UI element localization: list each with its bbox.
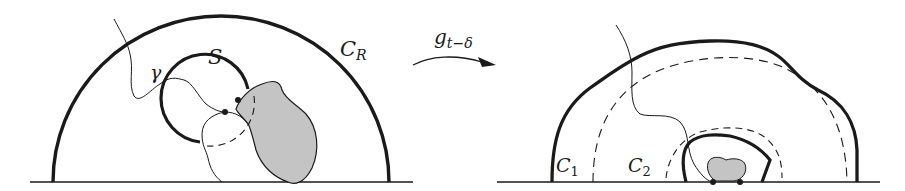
s-circle-thick-arc (161, 54, 248, 142)
label-s: S (208, 45, 222, 69)
label-gamma: γ (150, 61, 162, 83)
mapping-arrow: gt−δ (413, 25, 496, 67)
left-point-2 (235, 97, 241, 103)
c-r-semicircle (53, 16, 389, 182)
arrow-head-icon (478, 57, 496, 67)
arrow-curve (413, 57, 482, 65)
right-point-1 (710, 179, 716, 185)
left-blob-outline (202, 112, 225, 182)
right-shaded-region (707, 157, 745, 181)
label-c-r: CR (340, 37, 367, 63)
label-map: gt−δ (434, 25, 473, 51)
right-panel: C1 C2 (497, 25, 880, 185)
conformal-map-diagram: γ S CR gt−δ C1 C2 (0, 0, 905, 191)
left-panel: γ S CR (30, 16, 413, 183)
right-point-2 (737, 179, 743, 185)
label-c2: C2 (628, 154, 651, 179)
label-c1: C1 (556, 154, 579, 179)
left-point-1 (222, 109, 228, 115)
right-outer-boundary (552, 41, 857, 182)
left-shaded-region (236, 82, 317, 184)
